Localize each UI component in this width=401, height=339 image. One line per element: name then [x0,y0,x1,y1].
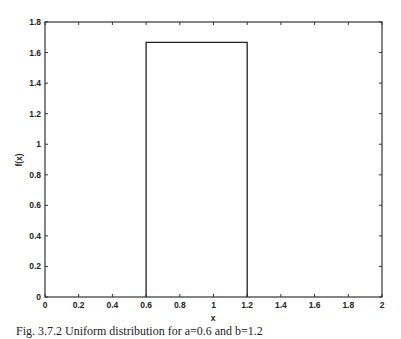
y-tick-label: 0.8 [29,170,41,180]
x-tick-label: 0.6 [140,300,152,310]
x-tick-label: 0.4 [106,300,118,310]
y-tick-label: 0.6 [29,200,41,210]
y-tick-label: 0.4 [29,231,41,241]
x-tick-label: 0.8 [174,300,186,310]
figure-caption: Fig. 3.7.2 Uniform distribution for a=0.… [16,324,263,339]
pdf-line [146,42,247,297]
plot-frame [45,22,382,297]
x-tick-label: 1 [211,300,216,310]
x-tick-label: 1.4 [275,300,287,310]
x-tick-label: 1.8 [342,300,354,310]
x-tick-label: 1.2 [241,300,253,310]
y-tick-label: 1 [36,139,41,149]
y-tick-label: 1.2 [29,109,41,119]
data-series [146,42,247,297]
y-tick-label: 1.4 [29,78,41,88]
y-axis: 00.20.40.60.811.21.41.61.8 [29,17,382,302]
x-tick-label: 0 [43,300,48,310]
y-tick-label: 1.6 [29,48,41,58]
y-axis-label: f(x) [14,153,24,166]
x-tick-label: 1.6 [309,300,321,310]
y-tick-label: 0.2 [29,261,41,271]
plot-border [45,22,382,297]
x-tick-label: 2 [380,300,385,310]
y-tick-label: 0 [36,292,41,302]
x-axis-label: x [211,313,216,323]
x-axis: 00.20.40.60.811.21.41.61.82 [43,22,385,310]
x-tick-label: 0.2 [73,300,85,310]
y-tick-label: 1.8 [29,17,41,27]
